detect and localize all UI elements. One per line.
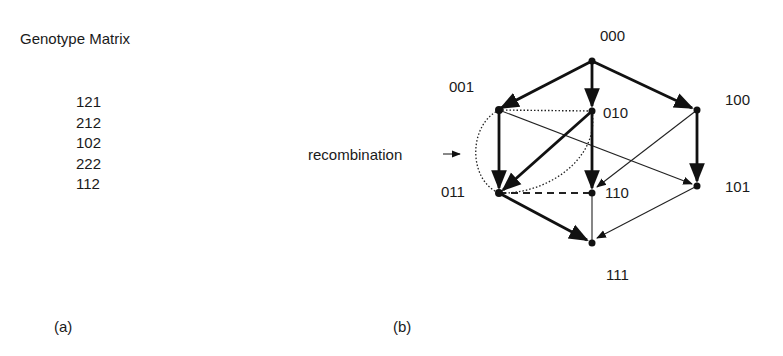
node-label-011: 011 bbox=[441, 183, 465, 200]
edge-000-001 bbox=[501, 61, 592, 108]
node-label-111: 111 bbox=[606, 266, 629, 283]
recombination-arc-001-011 bbox=[476, 110, 499, 193]
node-101 bbox=[694, 183, 701, 190]
hypercube-diagram: 000 001 010 100 011 110 101 111 recombin… bbox=[0, 0, 783, 356]
node-label-101: 101 bbox=[725, 178, 750, 195]
recombination-label: recombination bbox=[308, 146, 402, 163]
node-001 bbox=[495, 106, 503, 114]
node-110 bbox=[589, 190, 596, 197]
edge-001-101 bbox=[499, 110, 692, 184]
node-100 bbox=[694, 107, 701, 114]
edge-100-110 bbox=[597, 110, 697, 187]
node-010 bbox=[589, 108, 596, 115]
node-011 bbox=[495, 189, 503, 197]
edge-010-011 bbox=[503, 111, 592, 190]
edge-001-010 bbox=[499, 110, 592, 111]
edge-000-100 bbox=[592, 61, 692, 108]
edge-011-111 bbox=[499, 193, 587, 240]
node-label-010: 010 bbox=[603, 104, 628, 121]
node-label-110: 110 bbox=[605, 184, 629, 201]
node-label-100: 100 bbox=[725, 91, 750, 108]
node-label-001: 001 bbox=[449, 78, 474, 95]
node-111 bbox=[589, 240, 596, 247]
node-000 bbox=[589, 58, 596, 65]
node-label-000: 000 bbox=[600, 27, 625, 44]
